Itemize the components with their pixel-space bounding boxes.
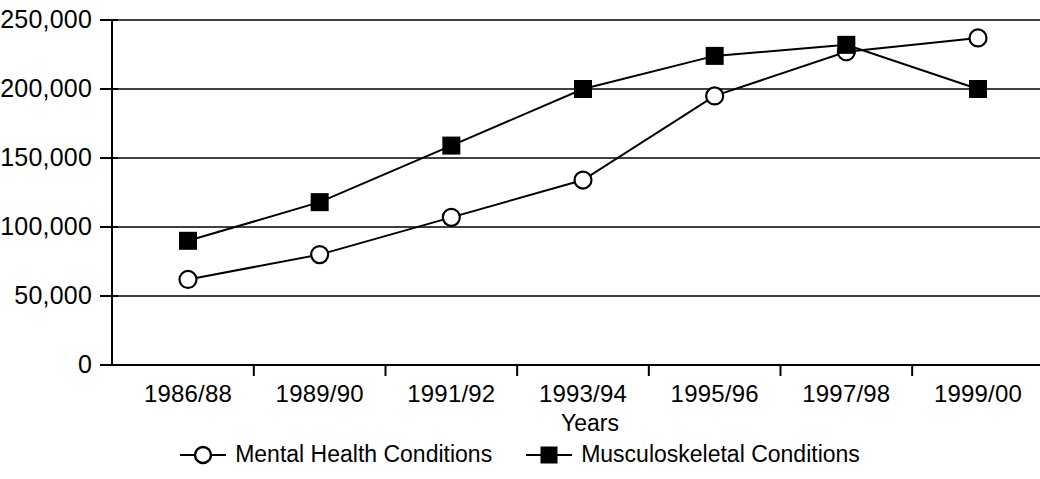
x-tick-label: 1995/96 bbox=[640, 382, 790, 406]
y-tick-label: 200,000 bbox=[0, 76, 92, 101]
filled-square-marker-icon bbox=[969, 80, 987, 98]
y-tick-label: 50,000 bbox=[14, 283, 92, 308]
x-tick-label: 1991/92 bbox=[376, 382, 526, 406]
open-circle-marker-icon bbox=[706, 87, 723, 104]
filled-square-marker-icon bbox=[179, 232, 197, 250]
y-tick-label: 250,000 bbox=[0, 7, 92, 32]
filled-square-marker-icon bbox=[706, 47, 724, 65]
legend-label-mental-health: Mental Health Conditions bbox=[235, 443, 492, 466]
filled-square-marker-icon bbox=[442, 137, 460, 155]
filled-square-marker-icon bbox=[526, 444, 572, 466]
y-axis bbox=[100, 20, 118, 365]
open-circle-marker-icon bbox=[970, 29, 987, 46]
chart-legend: Mental Health Conditions Musculoskeletal… bbox=[0, 443, 1040, 466]
open-circle-marker-icon bbox=[180, 444, 226, 466]
legend-label-musculoskeletal: Musculoskeletal Conditions bbox=[581, 443, 860, 466]
series-line bbox=[188, 45, 978, 241]
x-tick-label: 1986/88 bbox=[113, 382, 263, 406]
legend-entry-mental-health: Mental Health Conditions bbox=[180, 443, 492, 466]
open-circle-marker-icon bbox=[180, 271, 197, 288]
x-tick-label: 1999/00 bbox=[903, 382, 1040, 406]
open-circle-marker-icon bbox=[575, 172, 592, 189]
open-circle-marker-icon bbox=[311, 246, 328, 263]
y-tick-label: 0 bbox=[78, 352, 92, 377]
x-tick-label: 1993/94 bbox=[508, 382, 658, 406]
data-series bbox=[179, 36, 987, 250]
chart-plot-area bbox=[0, 0, 1040, 479]
open-circle-marker-icon bbox=[443, 209, 460, 226]
legend-entry-musculoskeletal: Musculoskeletal Conditions bbox=[526, 443, 860, 466]
gridline-group bbox=[112, 20, 1040, 296]
filled-square-marker-icon bbox=[837, 36, 855, 54]
x-tick-label: 1989/90 bbox=[245, 382, 395, 406]
x-tick-label: 1997/98 bbox=[771, 382, 921, 406]
line-chart: 050,000100,000150,000200,000250,000 1986… bbox=[0, 0, 1040, 479]
x-axis bbox=[112, 365, 1040, 376]
x-axis-title: Years bbox=[490, 412, 690, 435]
filled-square-marker-icon bbox=[311, 193, 329, 211]
filled-square-marker-icon bbox=[574, 80, 592, 98]
y-tick-label: 100,000 bbox=[0, 214, 92, 239]
y-tick-label: 150,000 bbox=[0, 145, 92, 170]
